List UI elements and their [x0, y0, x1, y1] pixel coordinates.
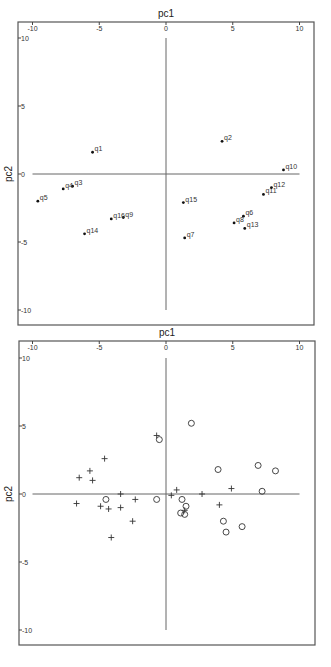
- data-point-dot: [62, 188, 65, 191]
- x-tick-label: -10: [27, 25, 37, 32]
- data-point-label: q3: [75, 179, 83, 187]
- pca-scatter-figure: pc1-10-505101050-5-10pc2q1q2q3q4q5q6q7q8…: [0, 0, 331, 667]
- circle-marker: [179, 496, 185, 502]
- x-tick-label: -5: [96, 25, 102, 32]
- y-tick-label: -10: [22, 627, 32, 634]
- data-point-label: q14: [87, 227, 99, 235]
- scatter-plot-markers: pc1-10-505101050-5-10pc2: [3, 327, 315, 645]
- data-point-dot: [83, 232, 86, 235]
- circle-marker: [183, 503, 189, 509]
- circle-marker: [239, 524, 245, 530]
- data-point-dot: [183, 237, 186, 240]
- data-point-label: q8: [236, 216, 244, 224]
- y-tick-label: -10: [21, 307, 31, 314]
- y-tick-label: -5: [21, 239, 27, 246]
- circle-marker: [188, 420, 194, 426]
- data-point-label: q7: [187, 231, 195, 239]
- data-point-label: q10: [285, 163, 297, 171]
- data-point-dot: [233, 222, 236, 225]
- y-axis-title: pc2: [3, 486, 14, 503]
- y-tick-label: 0: [22, 491, 26, 498]
- x-tick-label: -5: [96, 344, 102, 351]
- y-tick-label: 5: [22, 423, 26, 430]
- x-axis-title-top: pc1: [158, 8, 175, 19]
- x-tick-label: 5: [231, 25, 235, 32]
- data-point-dot: [221, 140, 224, 143]
- data-point-label: q4: [65, 182, 73, 190]
- circle-marker: [178, 510, 184, 516]
- data-point-label: q2: [224, 134, 232, 142]
- circle-marker: [272, 468, 278, 474]
- data-point-label: q5: [40, 194, 48, 202]
- circle-marker: [156, 437, 162, 443]
- data-point-dot: [182, 201, 185, 204]
- y-axis-title: pc2: [3, 166, 14, 183]
- x-tick-label: 10: [296, 344, 304, 351]
- data-point-label: q6: [245, 209, 253, 217]
- circle-marker: [220, 518, 226, 524]
- scatter-plot-labeled-items: pc1-10-505101050-5-10pc2q1q2q3q4q5q6q7q8…: [3, 8, 314, 325]
- data-point-label: q13: [247, 221, 259, 229]
- y-tick-label: 0: [21, 171, 25, 178]
- data-point-dot: [110, 217, 113, 220]
- x-tick-label: -10: [27, 344, 37, 351]
- data-point-label: q9: [125, 211, 133, 219]
- plot-frame: [19, 341, 315, 645]
- y-tick-label: -5: [22, 559, 28, 566]
- data-point-dot: [262, 193, 265, 196]
- x-axis-title-top: pc1: [159, 327, 176, 338]
- data-point-label: q16: [113, 212, 125, 220]
- x-tick-label: 0: [164, 25, 168, 32]
- data-point-dot: [270, 186, 273, 189]
- y-tick-label: 5: [21, 103, 25, 110]
- circle-marker: [223, 529, 229, 535]
- x-tick-label: 5: [231, 344, 235, 351]
- x-tick-label: 10: [296, 25, 304, 32]
- circle-marker: [215, 467, 221, 473]
- circle-marker: [103, 496, 109, 502]
- data-point-label: q1: [95, 145, 103, 153]
- y-tick-label: 10: [22, 355, 30, 362]
- data-point-label: q15: [185, 196, 197, 204]
- data-point-dot: [91, 151, 94, 154]
- data-point-dot: [243, 227, 246, 230]
- x-tick-label: 0: [164, 344, 168, 351]
- circle-marker: [259, 488, 265, 494]
- circle-marker: [255, 462, 261, 468]
- y-tick-label: 10: [21, 35, 29, 42]
- data-point-dot: [282, 169, 285, 172]
- circle-marker: [154, 496, 160, 502]
- data-point-dot: [36, 200, 39, 203]
- data-point-label: q12: [273, 181, 285, 189]
